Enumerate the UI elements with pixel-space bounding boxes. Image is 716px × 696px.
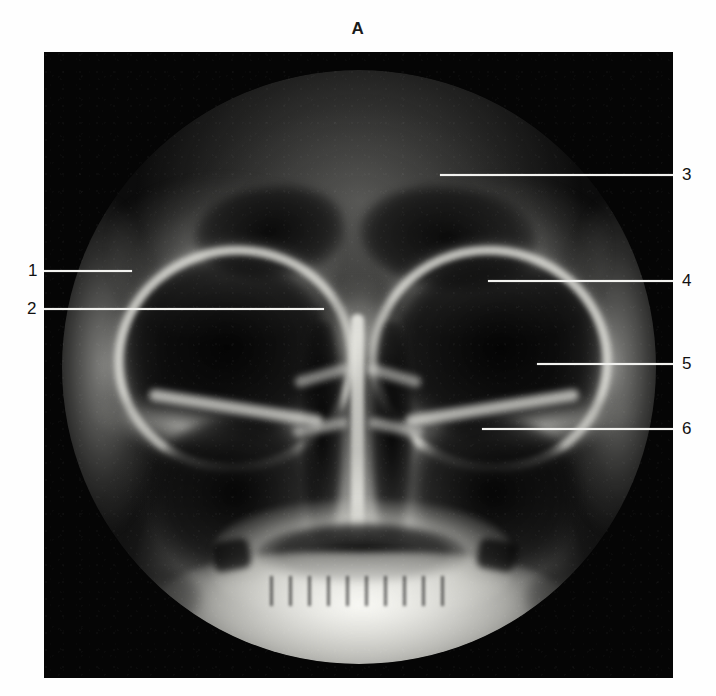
teeth <box>270 576 454 606</box>
molar-region-right <box>476 537 519 573</box>
figure-root: A <box>0 0 716 696</box>
mastoid-air-cells-right <box>522 566 608 630</box>
label-1: 1 <box>28 262 37 279</box>
label-4: 4 <box>682 272 691 289</box>
leader-line-2 <box>44 308 324 310</box>
leader-line-3 <box>440 174 673 176</box>
leader-line-4 <box>488 280 673 282</box>
collimated-field <box>62 70 656 664</box>
leader-line-5 <box>537 363 673 365</box>
label-3: 3 <box>682 166 691 183</box>
label-6: 6 <box>682 420 691 437</box>
label-2: 2 <box>27 300 36 317</box>
radiograph-image <box>44 52 673 678</box>
leader-line-1 <box>44 270 132 272</box>
panel-letter: A <box>0 20 716 37</box>
mastoid-air-cells-left <box>118 566 204 630</box>
label-5: 5 <box>682 355 691 372</box>
leader-line-6 <box>482 428 673 430</box>
